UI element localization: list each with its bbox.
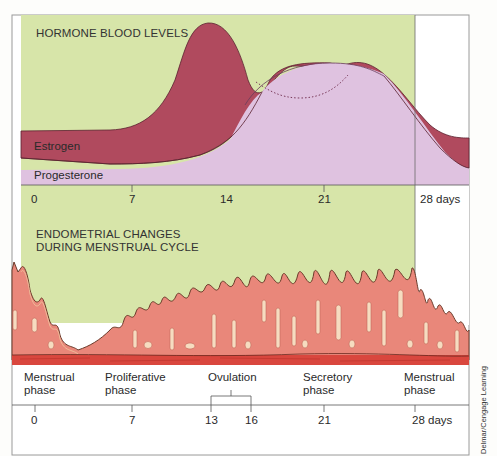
phase-menstrual-end: Menstrualphase <box>404 371 455 397</box>
phase-menstrual-start: Menstrualphase <box>24 371 75 397</box>
endometrium-title-line2: DURING MENSTRUAL CYCLE <box>36 241 199 254</box>
day-tick-13: 13 <box>205 414 218 427</box>
phase-ovulation: Ovulation <box>208 371 257 384</box>
phase-proliferative: Proliferativephase <box>105 371 166 397</box>
legend-progesterone: Progesterone <box>34 169 103 182</box>
credit-text: Delmar/Cengage Learning <box>477 366 489 454</box>
axis-tick-14: 14 <box>220 193 233 206</box>
myometrium-band <box>12 355 469 365</box>
day-tick-0: 0 <box>31 414 37 427</box>
axis-tick-0: 0 <box>31 193 37 206</box>
day-tick-21: 21 <box>318 414 331 427</box>
day-tick-7: 7 <box>129 414 135 427</box>
axis-tick-21: 21 <box>318 193 331 206</box>
axis-tick-7: 7 <box>129 193 135 206</box>
axis-tick-28: 28 days <box>420 193 460 206</box>
phase-secretory: Secretoryphase <box>303 371 352 397</box>
endometrium-title-line1: ENDOMETRIAL CHANGES <box>36 228 181 241</box>
day-tick-28: 28 days <box>412 414 452 427</box>
day-tick-16: 16 <box>245 414 258 427</box>
legend-estrogen: Estrogen <box>34 140 80 153</box>
hormone-panel-title: HORMONE BLOOD LEVELS <box>36 27 188 40</box>
